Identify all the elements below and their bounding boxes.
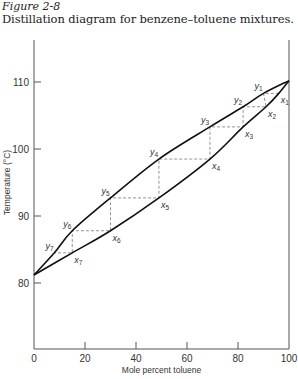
point-label-y5: y5 [101, 186, 111, 197]
axes-frame [34, 40, 289, 349]
y-tick-label: 80 [18, 278, 30, 289]
x-tick-label: 0 [31, 353, 37, 364]
y-tick-label: 100 [12, 144, 29, 155]
point-label-y7: y7 [44, 241, 54, 252]
x-tick-label: 80 [232, 353, 244, 364]
point-label-x3: x3 [244, 129, 254, 140]
y-tick-label: 90 [18, 211, 30, 222]
point-label-y6: y6 [62, 219, 72, 230]
distillation-chart: 8090100110020406080100Mole percent tolue… [0, 0, 298, 379]
point-label-y2: y2 [233, 95, 243, 106]
y-tick-label: 110 [13, 77, 29, 88]
point-label-x5: x5 [160, 200, 170, 211]
point-label-y1: y1 [254, 81, 264, 92]
point-label-x2: x2 [267, 109, 277, 120]
x-tick-label: 60 [181, 353, 193, 364]
x-tick-label: 20 [79, 353, 91, 364]
point-label-x6: x6 [112, 233, 122, 244]
x-axis-label: Mole percent toluene [122, 365, 202, 375]
point-label-y4: y4 [149, 147, 159, 158]
x-tick-label: 100 [281, 353, 298, 364]
y-axis-label: Temperature (°C) [2, 150, 12, 215]
point-label-y3: y3 [200, 115, 210, 126]
point-label-x1: x1 [280, 95, 290, 106]
staircase-lines [54, 93, 278, 252]
point-label-x4: x4 [211, 161, 221, 172]
point-label-x7: x7 [73, 255, 83, 266]
x-tick-label: 40 [130, 353, 142, 364]
